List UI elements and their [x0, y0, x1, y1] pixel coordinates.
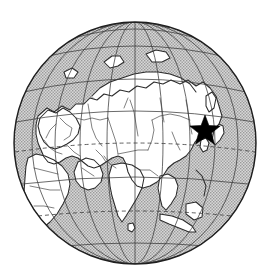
globe-figure — [0, 0, 268, 280]
globe-illustration — [0, 0, 268, 280]
